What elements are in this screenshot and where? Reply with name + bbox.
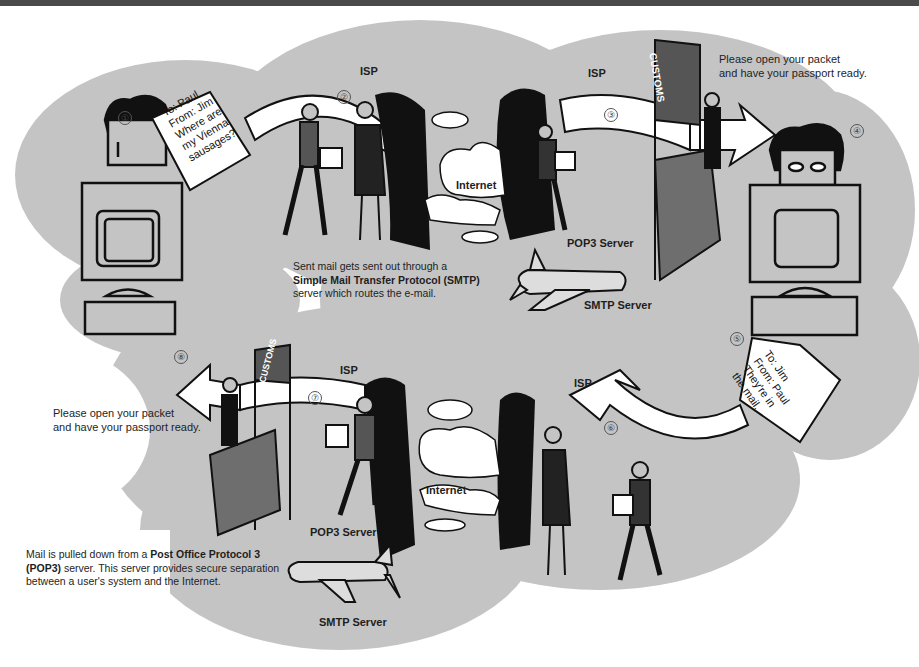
step-2-marker: ② (337, 90, 351, 104)
speech-line: Please open your packet (53, 406, 201, 420)
smtp-server-label: SMTP Server (319, 616, 387, 628)
smtp-caption: Sent mail gets sent out through a Simple… (293, 260, 513, 301)
step-1-marker: ① (118, 111, 132, 125)
internet-label: Internet (456, 179, 496, 191)
speech-line: Please open your packet (719, 52, 867, 66)
step-4-marker: ④ (850, 124, 864, 138)
isp-label: ISP (574, 377, 592, 389)
isp-label: ISP (360, 65, 378, 77)
step-8-marker: ⑧ (174, 350, 188, 364)
isp-door-bottom-right (498, 393, 536, 551)
isp-label: ISP (588, 67, 606, 79)
step-7-marker: ⑦ (308, 391, 322, 405)
customs-speech-top: Please open your packet and have your pa… (719, 52, 867, 80)
caption-term: (POP3) (26, 562, 61, 574)
customs-speech-bottom: Please open your packet and have your pa… (53, 406, 201, 434)
caption-term: Post Office Protocol 3 (150, 548, 260, 560)
speech-line: and have your passport ready. (53, 420, 201, 434)
pop3-server-label: POP3 Server (567, 237, 634, 249)
caption-term: Simple Mail Transfer Protocol (SMTP) (293, 274, 513, 288)
caption-line: Sent mail gets sent out through a (293, 260, 513, 274)
caption-text: Mail is pulled down from a (26, 548, 150, 560)
caption-text: server. This server provides secure sepa… (26, 562, 279, 588)
step-3-marker: ③ (604, 108, 618, 122)
internet-label: Internet (426, 484, 466, 496)
smtp-server-label: SMTP Server (584, 299, 652, 311)
step-6-marker: ⑥ (604, 421, 618, 435)
isp-label: ISP (340, 364, 358, 376)
step-5-marker: ⑤ (730, 332, 744, 346)
caption-line: server which routes the e-mail. (293, 287, 513, 301)
speech-line: and have your passport ready. (719, 66, 867, 80)
pop3-server-label: POP3 Server (310, 526, 377, 538)
pop3-caption: Mail is pulled down from a Post Office P… (26, 548, 294, 589)
